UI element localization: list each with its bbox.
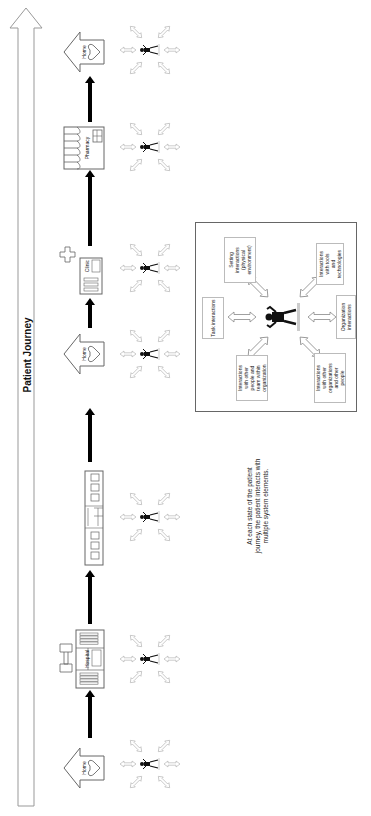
- journey-step-arrow: [88, 414, 92, 462]
- caption-line-1: At each state of the patient: [246, 450, 254, 562]
- stage-label: Home: [80, 42, 88, 62]
- stage-care-facility: [84, 470, 104, 566]
- stage-pharmacy: Pharmacy: [63, 126, 105, 170]
- patient-figure-icon: [266, 303, 301, 331]
- journey-step-arrow: [88, 176, 92, 246]
- patient-interaction-clusters: [110, 0, 190, 816]
- interaction-legend-box: Task interactions Setting interactions (…: [195, 222, 357, 412]
- hospital-icon: [58, 628, 106, 690]
- stage-home-3: Home: [62, 28, 106, 76]
- journey-step-arrow: [88, 696, 92, 738]
- stage-label: Clinic: [83, 255, 91, 277]
- caption-line-2: journey, the patient interacts with: [254, 450, 262, 562]
- caption-line-3: multiple system elements.: [262, 450, 270, 562]
- organization-interactions-box: Organization interactions: [336, 295, 356, 339]
- clinic-icon: [56, 244, 106, 296]
- timeline-arrow: [8, 6, 44, 810]
- journey-step-arrow: [88, 576, 92, 624]
- journey-step-arrow: [88, 304, 92, 328]
- tools-technologies-box: Interactions with tools and technologies: [316, 243, 344, 285]
- setting-interactions-box: Setting interactions (physical environme…: [224, 237, 256, 283]
- timeline-label: Patient Journey: [21, 305, 35, 405]
- building-icon: [84, 470, 104, 566]
- stage-clinic: Clinic: [56, 244, 106, 296]
- stage-label: Home: [80, 344, 88, 364]
- stage-hospital: Hospital: [58, 628, 106, 690]
- other-organizations-box: Interactions with other organizations an…: [314, 353, 346, 403]
- stage-home-2: Home: [62, 330, 106, 378]
- journey-step-arrow: [88, 82, 92, 122]
- task-interactions-box: Task interactions: [202, 297, 224, 339]
- stage-label: Hospital: [83, 644, 91, 674]
- stage-label: Home: [80, 758, 88, 778]
- stage-home-1: Home: [62, 744, 106, 792]
- people-within-organization-box: Interactions with other people and team …: [236, 355, 268, 401]
- stage-label: Pharmacy: [83, 130, 91, 166]
- caption: At each state of the patient journey, th…: [246, 450, 282, 562]
